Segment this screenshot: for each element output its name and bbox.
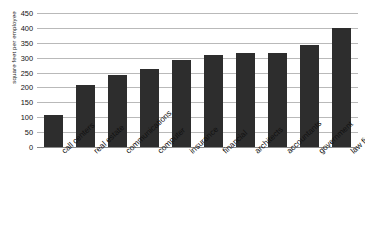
y-tick-label: 450 (21, 9, 33, 18)
y-axis-title: square feet per employee (10, 0, 17, 105)
y-tick-label: 0 (29, 143, 33, 152)
x-tick-label: real estate (92, 149, 98, 156)
x-tick-label: accountants (285, 149, 291, 156)
y-tick-label: 400 (21, 23, 33, 32)
x-tick-label: financial (221, 149, 227, 156)
bar[interactable] (44, 115, 63, 147)
x-tick-label: computer (156, 149, 162, 156)
x-tick-label: law firms (349, 149, 355, 156)
y-tick-label: 50 (25, 128, 33, 137)
bar-chart: square feet per employee 450400350300250… (0, 0, 365, 226)
x-tick-label: communications (124, 149, 130, 156)
y-tick-label: 100 (21, 113, 33, 122)
bar-slot (230, 13, 262, 147)
y-tick-label: 150 (21, 98, 33, 107)
y-tick-label: 200 (21, 83, 33, 92)
x-tick-label: call centers (60, 149, 66, 156)
x-tick-label: insurance (188, 149, 194, 156)
y-tick-label: 250 (21, 68, 33, 77)
x-tick-label: government (317, 149, 323, 156)
x-axis-labels: call centersreal estatecommunicationscom… (37, 149, 358, 223)
y-tick-label: 300 (21, 53, 33, 62)
x-tick-label: architects (253, 149, 259, 156)
bar-slot (37, 13, 69, 147)
y-tick-label: 350 (21, 38, 33, 47)
